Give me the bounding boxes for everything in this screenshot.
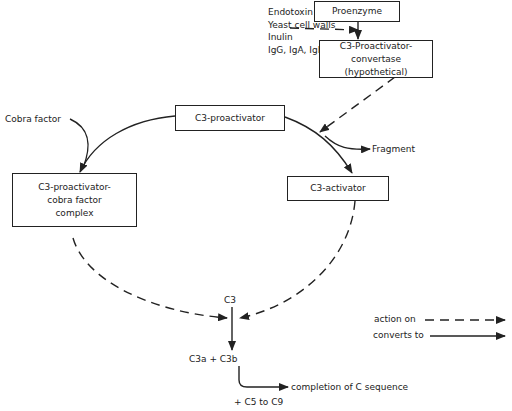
complex-label-3: complex [55,207,93,220]
complex-label-2: cobra factor [47,194,102,207]
c5-c9-label: + C5 to C9 [234,397,283,408]
complex-box: C3-proactivator- cobra factor complex [12,173,137,227]
convertase-label-2: convertase (hypothetical) [320,53,432,79]
legend-action-on-label: action on [374,314,416,325]
complex-label-1: C3-proactivator- [38,181,111,194]
cobra-factor-label: Cobra factor [5,114,61,125]
diagram-canvas: Endotoxin Yeast cell walls Inulin IgG, I… [0,0,512,411]
activator-box: C3-activator [287,176,389,201]
proenzyme-box: Proenzyme [314,1,400,22]
c3b-completion-arrow [239,366,288,387]
proactivator-to-complex-arrow [80,116,175,172]
proactivator-to-activator-arrow [285,117,352,173]
legend-converts-to-label: converts to [373,330,424,341]
proenzyme-label: Proenzyme [332,5,382,18]
activator-label: C3-activator [310,182,365,195]
c3-label: C3 [224,295,236,306]
convertase-box: C3-Proactivator- convertase (hypothetica… [319,40,433,78]
activator-action-arrow-c3 [240,201,355,318]
c3a-c3b-label: C3a + C3b [189,354,238,365]
complex-action-arrow [73,238,227,318]
convertase-label-1: C3-Proactivator- [340,40,412,53]
proactivator-box: C3-proactivator [175,105,285,131]
completion-label: completion of C sequence [291,382,408,393]
cobra-factor-arrow [70,119,88,168]
convertase-action-arrow [320,77,395,132]
fragment-label: Fragment [372,144,415,155]
proactivator-label: C3-proactivator [195,112,265,125]
